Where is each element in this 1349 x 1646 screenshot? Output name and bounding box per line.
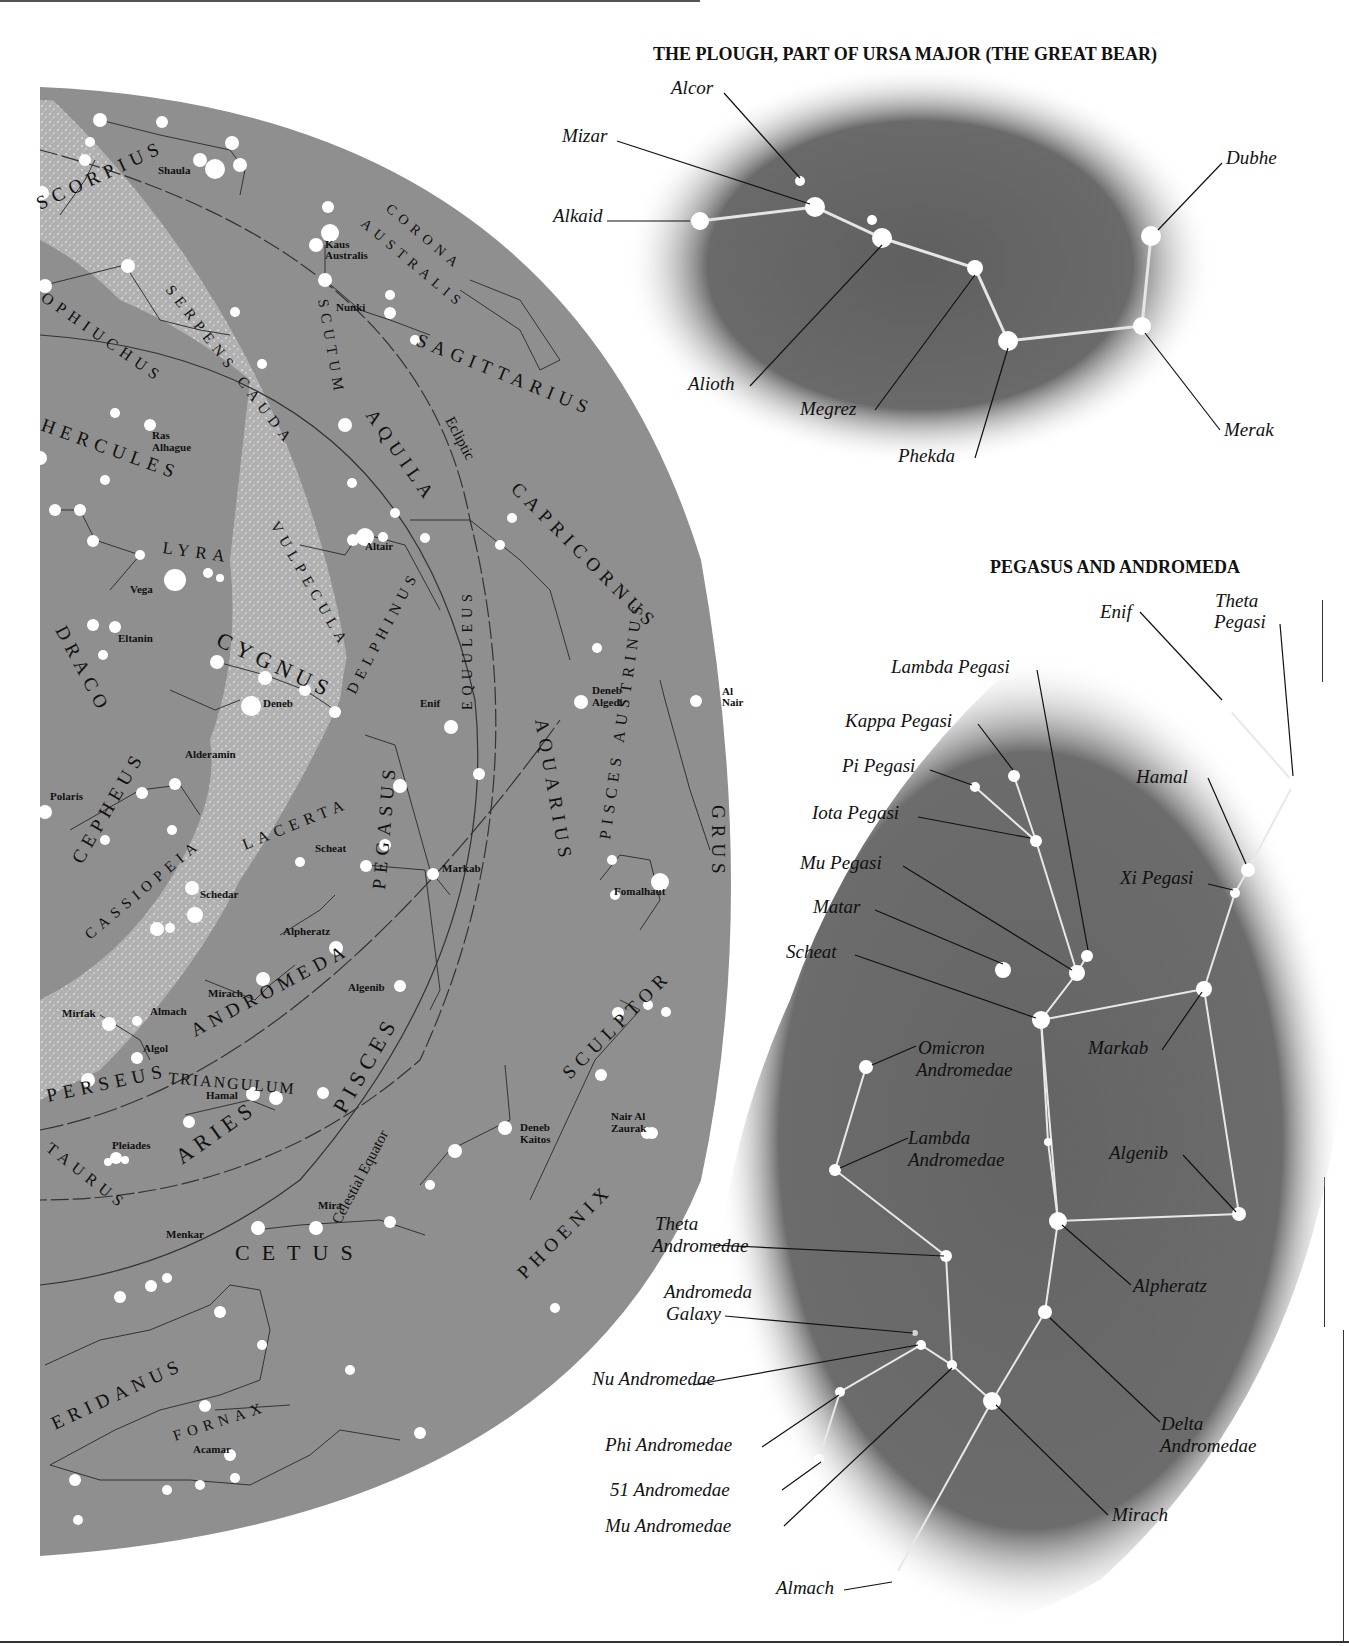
star-label: Deneb	[520, 1121, 550, 1133]
star-label-theta-pegasi-2: Pegasi	[1213, 611, 1266, 632]
star-label: Kaitos	[520, 1133, 551, 1145]
star-label: Alpheratz	[283, 925, 330, 937]
star-label-alioth: Alioth	[686, 373, 734, 394]
star-label: Schedar	[200, 888, 239, 900]
star-label-phi-andromedae: Phi Andromedae	[604, 1434, 732, 1455]
star-label: Mirfak	[62, 1007, 96, 1019]
constellation-name: GRUS	[708, 805, 729, 880]
star-label-theta-pegasi: Theta	[1215, 590, 1258, 611]
star-label-dubhe: Dubhe	[1225, 147, 1277, 168]
star-label: Enif	[420, 697, 441, 709]
plough-diagram: THE PLOUGH, PART OF URSA MAJOR (THE GREA…	[551, 44, 1277, 466]
star-label-scheat: Scheat	[786, 941, 837, 962]
star-label-xi-pegasi: Xi Pegasi	[1119, 867, 1193, 888]
star-label: Markab	[442, 862, 481, 874]
star-label: Mira	[318, 1199, 342, 1211]
constellation-name: EQUULEUS	[460, 588, 475, 710]
star-label: Alhague	[152, 441, 191, 453]
star-label: Algol	[143, 1042, 168, 1054]
star-label-almach: Almach	[774, 1577, 834, 1598]
star-label: Ras	[152, 429, 170, 441]
star-label: Deneb	[263, 697, 293, 709]
star-label: Hamal	[206, 1089, 238, 1101]
star-label: Fomalhaut	[614, 885, 666, 897]
star-label: Vega	[130, 583, 153, 595]
star-label: Shaula	[158, 164, 191, 176]
star-label-mu-andromedae: Mu Andromedae	[604, 1515, 731, 1536]
star-label: Algenib	[348, 981, 385, 993]
star-label-megrez: Megrez	[799, 398, 857, 419]
chart-canvas: Ecliptic Celestial Equator	[0, 0, 1349, 1646]
star-label: Pleiades	[112, 1139, 151, 1151]
pegasus-backdrop	[716, 655, 1345, 1626]
star-label: Mirach	[208, 987, 243, 999]
plough-backdrop	[625, 65, 1215, 465]
star-label-pi-pegasi: Pi Pegasi	[841, 755, 915, 776]
star-label: Australis	[325, 249, 369, 261]
star-label: Nunki	[336, 301, 365, 313]
plough-title: THE PLOUGH, PART OF URSA MAJOR (THE GREA…	[653, 44, 1157, 65]
star-label-51-andromedae: 51 Andromedae	[610, 1479, 730, 1500]
star-label-andromeda-galaxy-2: Galaxy	[666, 1303, 721, 1324]
star-label-phekda: Phekda	[897, 445, 955, 466]
star-label-omicron: Omicron	[918, 1037, 985, 1058]
star-label-delta-andromedae: Delta	[1160, 1413, 1203, 1434]
star-label-mirach: Mirach	[1111, 1504, 1168, 1525]
star-label-delta-andromedae-2: Andromedae	[1158, 1435, 1256, 1456]
star-label-theta-andromedae: Theta	[655, 1213, 698, 1234]
star-label-kappa-pegasi: Kappa Pegasi	[844, 710, 952, 731]
star-label-alpheratz: Alpheratz	[1131, 1275, 1207, 1296]
star-label-matar: Matar	[812, 896, 861, 917]
star-label-mizar: Mizar	[561, 125, 608, 146]
star-label: Polaris	[50, 790, 84, 802]
star-label: Algedi	[592, 696, 623, 708]
star-label: Acamar	[193, 1443, 231, 1455]
constellation-name: CETUS	[235, 1240, 365, 1265]
star-label: Nair	[722, 696, 744, 708]
star-chart-page: Ecliptic Celestial Equator	[0, 0, 1349, 1646]
star-label-theta-andromedae-2: Andromedae	[650, 1235, 748, 1256]
star-label-lambda-andromedae-2: Andromedae	[906, 1149, 1004, 1170]
star-label: Scheat	[315, 842, 347, 854]
star-label: Deneb	[592, 684, 622, 696]
star-label-nu-andromedae: Nu Andromedae	[591, 1368, 715, 1389]
star-label: Altair	[365, 540, 393, 552]
star-label: Zaurak	[611, 1122, 647, 1134]
star-label-markab: Markab	[1087, 1037, 1148, 1058]
star-label-omicron-2: Andromedae	[914, 1059, 1012, 1080]
star-label-alkaid: Alkaid	[551, 205, 603, 226]
star-label: Alderamin	[185, 748, 236, 760]
star-label: Nair Al	[611, 1110, 645, 1122]
star-label: Menkar	[166, 1228, 204, 1240]
star-label-alcor: Alcor	[669, 77, 714, 98]
star-label: Eltanin	[118, 632, 153, 644]
star-label-enif: Enif	[1099, 601, 1134, 622]
star-label-mu-pegasi: Mu Pegasi	[799, 852, 882, 873]
star-label-iota-pegasi: Iota Pegasi	[811, 802, 899, 823]
star-label: Almach	[150, 1005, 187, 1017]
star-label-lambda-andromedae: Lambda	[907, 1127, 970, 1148]
star-label-hamal: Hamal	[1135, 766, 1188, 787]
star-label-andromeda-galaxy: Andromeda	[662, 1281, 752, 1302]
pegasus-andromeda-title: PEGASUS AND ANDROMEDA	[990, 557, 1240, 577]
star-label-lambda-pegasi: Lambda Pegasi	[890, 656, 1010, 677]
star-label-algenib: Algenib	[1107, 1142, 1168, 1163]
star-label-merak: Merak	[1223, 419, 1274, 440]
